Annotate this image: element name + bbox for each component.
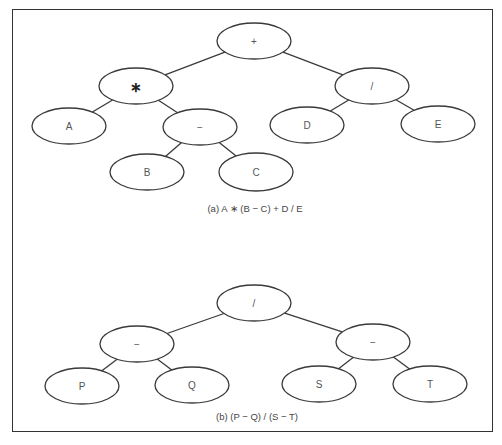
tree-node-P: P [45,368,119,404]
tree-node-A: A [32,108,106,144]
node-label: ∗ [130,79,142,95]
edge-div-E [396,100,414,111]
edge-times-minus [158,100,177,112]
tree-node-D: D [270,107,344,143]
node-label: − [134,339,140,350]
tree-node-div: / [335,68,409,104]
tree-node-S: S [282,366,356,402]
edge-minus-C [219,142,236,156]
node-label: S [316,379,323,390]
node-label: / [371,81,374,92]
edge-times-A [92,100,112,112]
tree-a: +∗/A−DEBC (a) A ∗ (B − C) + D / E [32,23,475,214]
tree-node-C: C [219,153,293,191]
node-label: + [251,36,257,47]
node-label: Q [188,380,196,391]
tree-node-minusR: − [336,324,410,360]
tree-node-plus: + [217,23,291,59]
tree-node-times: ∗ [99,68,173,104]
tree-node-minusL: − [100,326,174,362]
tree-node-T: T [393,366,467,402]
tree-node-E: E [401,106,475,142]
tree-node-Q: Q [155,367,229,403]
node-label: − [370,337,376,348]
edge-minusL-P [102,359,117,371]
edge-div-minusL [167,314,224,334]
tree-node-div: / [217,285,291,321]
node-label: / [253,298,256,309]
node-label: T [427,379,433,390]
tree-node-minus: − [163,109,237,145]
node-label: A [66,121,73,132]
edge-minusR-T [393,357,409,369]
node-label: − [197,122,203,133]
tree-node-B: B [110,154,184,190]
node-label: B [144,167,151,178]
node-label: D [303,120,310,131]
edge-div-D [330,100,348,111]
edge-minus-B [165,143,181,157]
expression-tree-diagram: +∗/A−DEBC (a) A ∗ (B − C) + D / E /−−PQS… [0,0,502,445]
caption-a: (a) A ∗ (B − C) + D / E [207,203,302,214]
edge-div-minusR [285,313,343,332]
edge-plus-div [283,52,343,75]
node-label: P [79,381,86,392]
tree-b-nodes: /−−PQST [45,285,467,404]
node-label: C [252,167,259,178]
edge-minusL-Q [157,359,172,370]
edge-minusR-S [339,357,354,368]
tree-b: /−−PQST (b) (P − Q) / (S − T) [45,285,467,422]
edge-plus-times [165,52,225,75]
caption-b: (b) (P − Q) / (S − T) [216,411,298,422]
node-label: E [435,119,442,130]
